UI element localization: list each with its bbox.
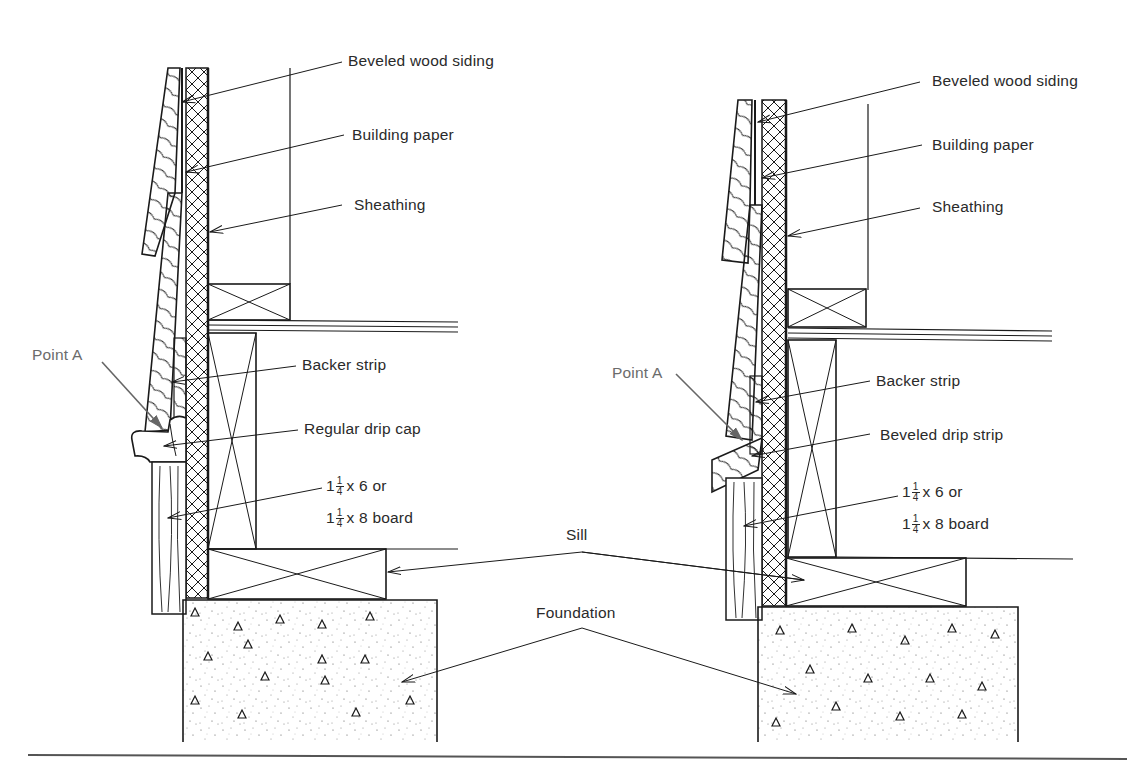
- right-label-point-a: Point A: [612, 364, 663, 382]
- label-foundation: Foundation: [536, 604, 616, 622]
- right-section: [676, 82, 1073, 742]
- left-label-beveled-wood-siding: Beveled wood siding: [348, 52, 494, 70]
- whole-number: 1: [326, 509, 335, 526]
- left-label-backer-strip: Backer strip: [302, 356, 386, 374]
- fraction: 14: [336, 508, 344, 529]
- fraction: 14: [912, 514, 920, 535]
- left-label-sheathing: Sheathing: [354, 196, 426, 214]
- left-label-building-paper: Building paper: [352, 126, 454, 144]
- right-label-building-paper: Building paper: [932, 136, 1034, 154]
- right-label-board-size-1: 114x 6 or: [902, 482, 963, 503]
- bottom-rule: [28, 755, 1127, 759]
- diagram-canvas: Beveled wood siding Building paper Sheat…: [0, 0, 1127, 765]
- label-sill: Sill: [566, 526, 587, 544]
- whole-number: 1: [902, 483, 911, 500]
- left-label-point-a: Point A: [32, 346, 83, 364]
- left-label-board-size-2: 114x 8 board: [326, 508, 413, 529]
- left-label-regular-drip-cap: Regular drip cap: [304, 420, 421, 438]
- right-label-beveled-drip-strip: Beveled drip strip: [880, 426, 1003, 444]
- right-label-sheathing: Sheathing: [932, 198, 1004, 216]
- fraction: 14: [912, 482, 920, 503]
- fraction: 14: [336, 476, 344, 497]
- left-section: [102, 62, 458, 742]
- right-label-backer-strip: Backer strip: [876, 372, 960, 390]
- whole-number: 1: [326, 477, 335, 494]
- whole-number: 1: [902, 515, 911, 532]
- right-label-board-size-2: 114x 8 board: [902, 514, 989, 535]
- left-label-board-size-1: 114x 6 or: [326, 476, 387, 497]
- right-label-beveled-wood-siding: Beveled wood siding: [932, 72, 1078, 90]
